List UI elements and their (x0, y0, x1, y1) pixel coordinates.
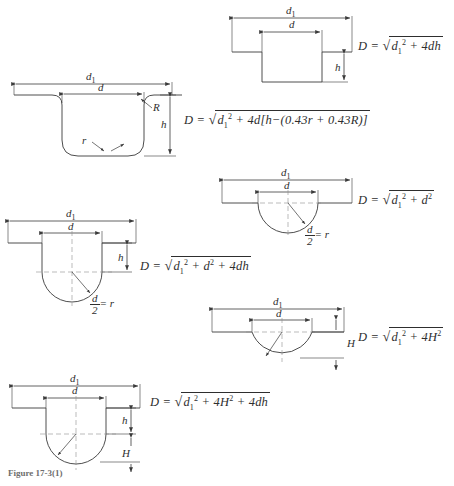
figure-caption: Figure 17-3(1) (8, 468, 63, 478)
equation-shallow-arc-groove: D = √d12 + 4H2 (358, 327, 443, 347)
label-d-rect: d (289, 18, 295, 30)
label-h-ugroove: h (118, 251, 124, 263)
label-d-shallow-arc: d (276, 307, 282, 319)
label-h-rect: h (335, 61, 341, 73)
label-radius-note-semicircular: d2= r (305, 224, 329, 248)
label-d1-rect: d1 (286, 4, 296, 19)
diagram-u-groove-with-arc (12, 384, 140, 472)
label-d1-filleted: d1 (86, 70, 96, 85)
diagram-u-groove (8, 219, 136, 306)
label-h-ugroove-arc: h (122, 414, 128, 426)
equation-u-groove-with-arc: D = √d12 + 4H2 + 4dh (150, 392, 270, 412)
label-H-shallow-arc: H (347, 337, 355, 349)
equation-u-groove: D = √d12 + d2 + 4dh (140, 256, 251, 276)
label-d-filleted: d (98, 81, 104, 93)
label-d-ugroove: d (68, 220, 74, 232)
label-r-filleted: r (82, 134, 86, 146)
label-radius-note-ugroove: d2= r (90, 293, 114, 317)
equation-filleted-groove: D = √d12 + 4d[h−(0.43r + 0.43R)] (184, 110, 370, 130)
equation-semicircular-groove: D = √d12 + d2 (358, 190, 434, 210)
label-R-filleted: R (153, 101, 160, 113)
equation-rect-groove: D = √d12 + 4dh (358, 36, 443, 56)
diagram-filleted-groove (14, 82, 182, 156)
groove-formula-figure (0, 0, 454, 486)
label-d-ugroove-arc: d (72, 384, 78, 396)
label-d-semicircular: d (284, 179, 290, 191)
label-h-filleted: h (161, 118, 167, 130)
label-H-ugroove-arc: H (122, 447, 130, 459)
